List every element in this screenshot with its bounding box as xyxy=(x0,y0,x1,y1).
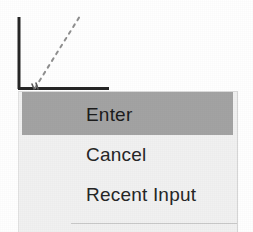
plot-svg xyxy=(0,0,253,95)
plot-area xyxy=(0,0,253,95)
menu-item-enter-label: Enter xyxy=(86,104,132,125)
menu-separator xyxy=(71,223,238,224)
screenshot-root: Enter Cancel Recent Input xyxy=(0,0,253,232)
menu-item-cancel-label: Cancel xyxy=(86,144,146,165)
dashed-trend-line xyxy=(35,16,80,88)
menu-item-recent-input-label: Recent Input xyxy=(86,184,196,205)
menu-item-recent-input[interactable]: Recent Input xyxy=(19,175,237,215)
context-menu[interactable]: Enter Cancel Recent Input xyxy=(18,91,238,232)
menu-item-enter[interactable]: Enter xyxy=(22,92,233,135)
menu-item-cancel[interactable]: Cancel xyxy=(19,135,237,175)
